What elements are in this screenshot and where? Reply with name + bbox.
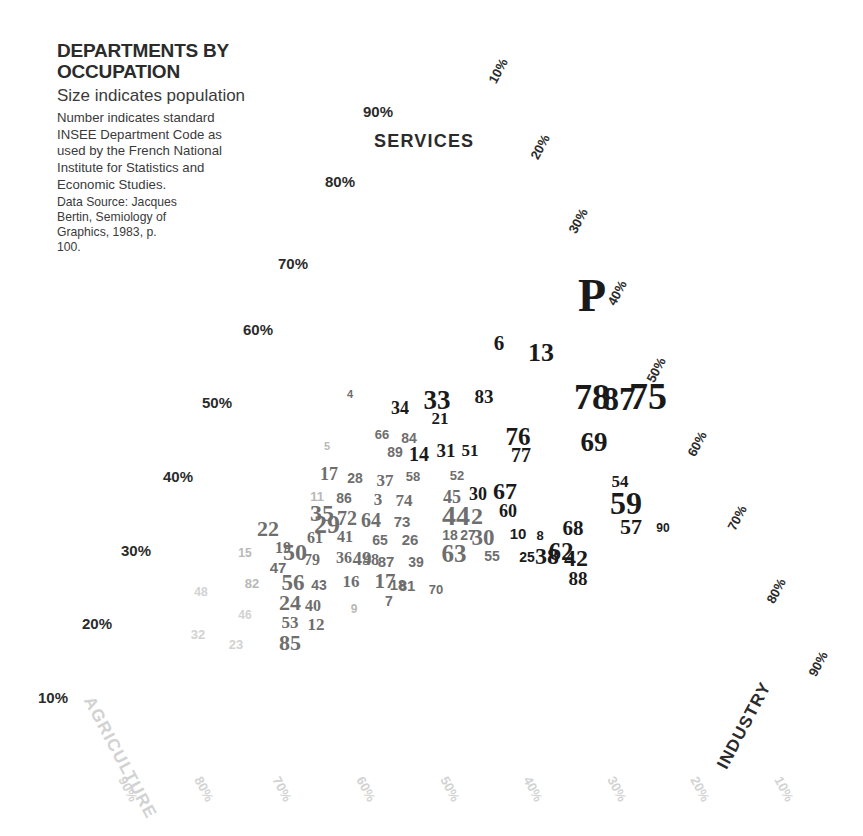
data-point-28: 28 (347, 471, 363, 485)
data-point-82: 82 (245, 577, 259, 590)
axis-tick-bottom-60: 60% (353, 774, 378, 804)
page-title-line2: OCCUPATION (57, 61, 180, 82)
page-title-line1: DEPARTMENTS BY (57, 40, 229, 61)
data-point-73: 73 (394, 514, 411, 529)
axis-tick-bottom-20: 20% (687, 774, 712, 804)
data-point-6: 6 (494, 333, 505, 354)
legend-source: Data Source: Jacques Bertin, Semiology o… (57, 195, 177, 255)
data-point-89: 89 (387, 445, 403, 459)
data-point-37: 37 (377, 472, 394, 489)
axis-tick-left-40: 40% (163, 468, 193, 485)
data-point-16: 16 (343, 573, 360, 590)
data-point-36: 36 (336, 550, 352, 566)
axis-tick-bottom-50: 50% (437, 774, 462, 804)
axis-tick-right-70: 70% (724, 503, 749, 533)
data-point-22: 22 (257, 518, 279, 540)
data-point-7: 7 (385, 594, 393, 608)
axis-label-services: SERVICES (374, 131, 474, 152)
legend-note: Number indicates standard INSEE Departme… (57, 110, 232, 193)
data-point-39: 39 (408, 555, 424, 569)
axis-tick-right-20: 20% (527, 132, 552, 162)
data-point-34: 34 (391, 399, 409, 417)
axis-tick-left-90: 90% (363, 103, 393, 120)
axis-label-agriculture: AGRICULTURE (79, 693, 160, 822)
data-point-4: 4 (347, 389, 353, 400)
data-point-52: 52 (450, 469, 464, 482)
data-point-24: 24 (279, 592, 301, 614)
data-point-9: 9 (351, 603, 358, 615)
data-point-10: 10 (510, 526, 527, 541)
axis-tick-right-60: 60% (684, 429, 709, 459)
data-point-30: 30 (469, 485, 487, 503)
data-point-23: 23 (229, 638, 243, 651)
data-point-8: 8 (536, 529, 543, 542)
data-point-41: 41 (337, 529, 353, 545)
legend-block: DEPARTMENTS BY OCCUPATION Size indicates… (57, 40, 287, 255)
axis-tick-right-10: 10% (485, 56, 510, 86)
data-point-42: 42 (564, 546, 588, 570)
data-point-65: 65 (372, 533, 388, 547)
ternary-plot-canvas: DEPARTMENTS BY OCCUPATION Size indicates… (0, 0, 863, 836)
axis-tick-right-90: 90% (805, 649, 830, 679)
data-point-90: 90 (656, 522, 669, 534)
data-point-72: 72 (337, 508, 357, 528)
axis-tick-right-30: 30% (565, 206, 590, 236)
data-point-61: 61 (307, 530, 323, 546)
axis-tick-left-30: 30% (121, 542, 151, 559)
data-point-69: 69 (581, 429, 608, 456)
data-point-25: 25 (519, 550, 535, 564)
data-point-43: 43 (311, 578, 327, 592)
data-point-15: 15 (238, 547, 251, 559)
data-point-81: 81 (399, 578, 416, 593)
data-point-74: 74 (396, 492, 413, 509)
paris-label: P (578, 273, 606, 319)
data-point-32: 32 (191, 628, 205, 641)
axis-tick-bottom-30: 30% (604, 774, 629, 804)
data-point-31: 31 (437, 441, 456, 460)
data-point-46: 46 (238, 609, 251, 621)
data-point-70: 70 (429, 583, 443, 596)
axis-label-industry: INDUSTRY (713, 679, 776, 773)
data-point-63: 63 (442, 541, 467, 566)
data-point-40: 40 (305, 598, 321, 614)
data-point-13: 13 (528, 340, 554, 366)
axis-tick-left-70: 70% (278, 255, 308, 272)
data-point-58: 58 (406, 470, 420, 483)
data-point-87b: 87 (378, 554, 395, 569)
data-point-77: 77 (511, 445, 531, 465)
data-point-75: 75 (629, 377, 667, 415)
axis-tick-right-80: 80% (763, 576, 788, 606)
data-point-26: 26 (402, 532, 419, 547)
axis-tick-left-80: 80% (325, 173, 355, 190)
axis-tick-bottom-80: 80% (191, 774, 216, 804)
data-point-3: 3 (374, 491, 383, 508)
axis-tick-bottom-70: 70% (269, 774, 294, 804)
data-point-12: 12 (308, 616, 325, 633)
data-point-88: 88 (569, 569, 588, 588)
data-point-68: 68 (563, 518, 584, 539)
data-point-14: 14 (409, 444, 429, 464)
data-point-64: 64 (361, 510, 381, 530)
data-point-17: 17 (320, 465, 338, 483)
axis-tick-right-40: 40% (604, 278, 629, 308)
data-point-67: 67 (493, 479, 517, 503)
axis-tick-left-50: 50% (202, 394, 232, 411)
data-point-57: 57 (620, 516, 642, 538)
data-point-55: 55 (484, 549, 500, 563)
data-point-30b: 30 (472, 526, 495, 549)
axis-tick-left-60: 60% (243, 321, 273, 338)
axis-tick-bottom-40: 40% (520, 774, 545, 804)
axis-tick-left-20: 20% (82, 615, 112, 632)
legend-subtitle: Size indicates population (57, 86, 287, 106)
data-point-60: 60 (499, 502, 517, 520)
page-title: DEPARTMENTS BY OCCUPATION (57, 40, 287, 83)
data-point-44: 44 (442, 502, 470, 530)
data-point-85: 85 (279, 632, 301, 654)
axis-tick-bottom-10: 10% (771, 774, 796, 804)
data-point-48b: 48 (363, 552, 379, 568)
data-point-21: 21 (432, 410, 449, 427)
data-point-83: 83 (475, 387, 494, 406)
data-point-53: 53 (282, 614, 299, 631)
data-point-5: 5 (324, 441, 330, 452)
data-point-66: 66 (375, 428, 389, 441)
